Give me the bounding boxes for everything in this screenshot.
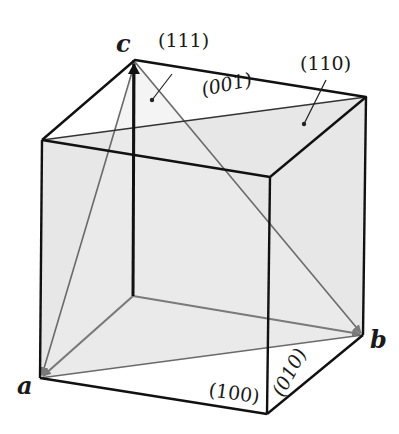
vector-c	[133, 64, 134, 296]
label-010: (010)	[267, 344, 310, 399]
label-a: a	[17, 371, 33, 400]
label-111: (111)	[158, 29, 209, 51]
label-c: c	[116, 29, 131, 58]
label-110: (110)	[300, 52, 351, 74]
leader-111-dot	[150, 98, 154, 102]
leader-110-dot	[302, 122, 306, 126]
label-b: b	[370, 325, 387, 354]
unit-cell-diagram: c a b (111) (110) (001) (100) (010)	[0, 0, 399, 434]
label-100: (100)	[207, 378, 261, 407]
